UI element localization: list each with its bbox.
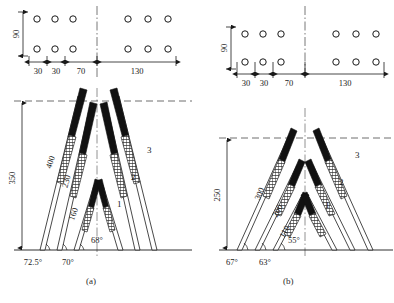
plan-holes-upper-left-a <box>34 16 76 22</box>
dim-chain-b <box>237 62 384 78</box>
hole-number-1-label-b: 1 <box>325 200 330 210</box>
panel-b: 90 30 30 70 130 250 <box>197 0 394 303</box>
plan-holes-upper-right-a <box>125 16 171 22</box>
angle-63-label-b: 63° <box>259 257 271 267</box>
dim-90-label-a: 90 <box>11 30 21 39</box>
dim-70-label-b: 70 <box>285 78 294 88</box>
panel-a-caption: (a) <box>86 276 96 286</box>
dim-chain-a <box>29 56 176 66</box>
dim-30-1-label-b: 30 <box>242 78 251 88</box>
hole-right-1-b <box>301 192 337 250</box>
dim-30-1-label-a: 30 <box>34 66 43 76</box>
angle-67-label-b: 67° <box>226 257 238 267</box>
dim-90-label-b: 90 <box>219 44 229 53</box>
plan-holes-lower-left-a <box>34 46 76 52</box>
plan-holes-lower-right-b <box>333 59 379 65</box>
dim-250-label-b: 250 <box>212 189 222 202</box>
hole-number-2-label-a: 2 <box>131 172 136 182</box>
angle-70-label-a: 70° <box>62 257 74 267</box>
hole-number-3-label-a: 3 <box>147 145 152 155</box>
dim-130-label-b: 130 <box>339 78 352 88</box>
hole-number-3-label-b: 3 <box>355 150 360 160</box>
dim-130-label-a: 130 <box>131 66 144 76</box>
angle-72-5-label-a: 72.5° <box>24 257 42 267</box>
plan-holes-lower-left-b <box>242 59 284 65</box>
panel-b-drawing: 90 30 30 70 130 250 <box>197 0 394 303</box>
angle-55-label-b: 55° <box>288 235 300 245</box>
length-400-label-a: 400 <box>43 154 56 169</box>
angle-68-label-a: 68° <box>91 235 103 245</box>
dim-70-label-a: 70 <box>77 66 86 76</box>
hole-number-1-label-a: 1 <box>117 199 122 209</box>
length-230-label-a: 230 <box>60 174 73 189</box>
panel-b-caption: (b) <box>283 276 294 286</box>
panel-a-drawing: 90 30 30 70 130 350 <box>0 0 197 303</box>
dim-30-2-label-a: 30 <box>52 66 61 76</box>
plan-holes-upper-right-b <box>333 31 379 37</box>
dim-30-2-label-b: 30 <box>260 78 269 88</box>
dim-350-label-a: 350 <box>7 172 17 185</box>
panel-a: 90 30 30 70 130 350 <box>0 0 197 303</box>
plan-holes-lower-right-a <box>125 46 171 52</box>
hole-number-2-label-b: 2 <box>339 177 344 187</box>
plan-holes-upper-left-b <box>242 31 284 37</box>
